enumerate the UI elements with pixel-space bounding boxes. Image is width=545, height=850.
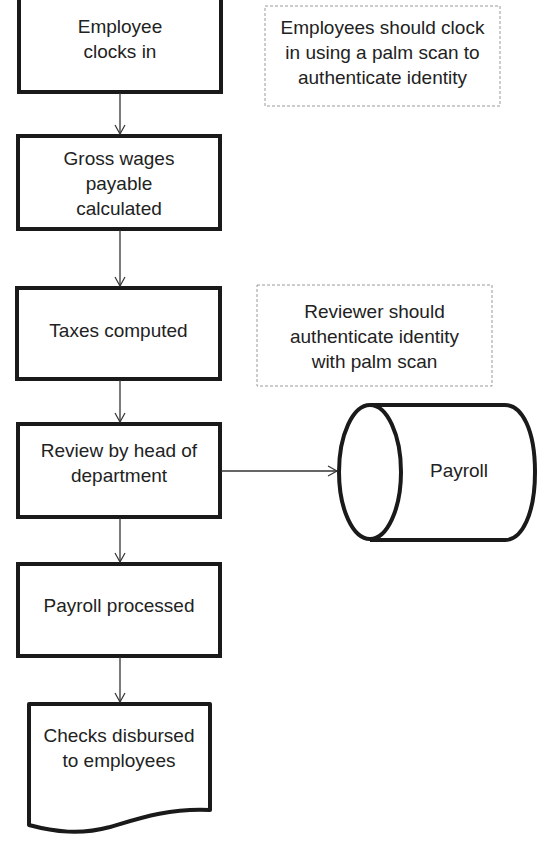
note-clock-in-line-1: Employees should clock [281,15,485,40]
node-payroll-cylinder-end [339,405,401,539]
note-clock-in-label: Employees should clock in using a palm s… [266,12,499,92]
node-checks-label: Checks disbursed to employees [30,720,208,776]
node-gross-wages-line-2: payable [86,171,153,196]
note-review-line-2: authenticate identity [290,324,459,349]
node-gross-wages-label: Gross wages payable calculated [20,143,218,223]
node-processed-text: Payroll processed [43,593,194,618]
node-review-label: Review by head of department [20,433,218,493]
note-review-label: Reviewer should authenticate identity wi… [258,296,491,376]
node-payroll-db-label: Payroll [405,455,513,485]
node-checks-line-1: Checks disbursed [43,723,194,748]
node-processed-label: Payroll processed [20,575,218,635]
node-taxes-text: Taxes computed [49,318,187,343]
node-review-line-1: Review by head of [41,438,197,463]
note-review-line-1: Reviewer should [304,299,444,324]
note-clock-in-line-3: authenticate identity [298,65,467,90]
note-clock-in-line-2: in using a palm scan to [285,40,479,65]
note-review-line-3: with palm scan [312,349,438,374]
node-payroll-db-text: Payroll [430,458,488,483]
node-clock-in-label: Employee clocks in [21,4,219,74]
node-taxes-label: Taxes computed [19,300,218,360]
node-clock-in-line-1: Employee [78,14,163,39]
node-checks-line-2: to employees [62,748,175,773]
node-gross-wages-line-3: calculated [76,196,162,221]
node-gross-wages-line-1: Gross wages [64,146,175,171]
node-clock-in-line-2: clocks in [84,39,157,64]
node-review-line-2: department [71,463,167,488]
